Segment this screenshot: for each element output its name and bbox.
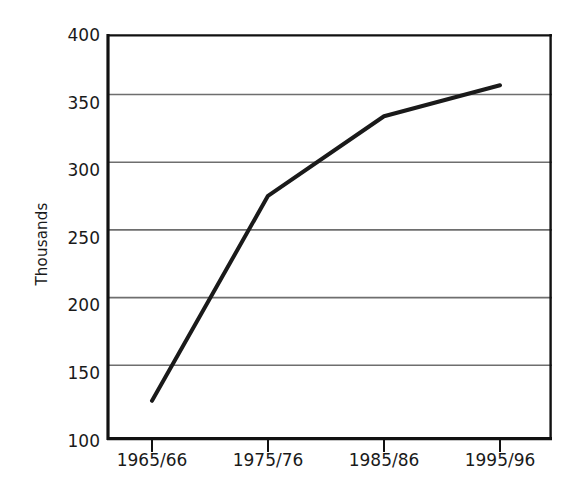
line-chart: Thousands 400 350 300 250 200 150 100 [0,0,579,499]
x-axis-tick-labels: 1965/66 1975/76 1985/86 1995/96 [0,452,579,482]
x-tick-label-1985-86: 1985/86 [349,452,420,469]
x-tick-label-1975-76: 1975/76 [233,452,304,469]
x-axis-ticks [152,440,500,452]
x-tick-label-1995-96: 1995/96 [465,452,536,469]
x-tick-label-1965-66: 1965/66 [117,452,188,469]
plot-area [0,0,579,499]
